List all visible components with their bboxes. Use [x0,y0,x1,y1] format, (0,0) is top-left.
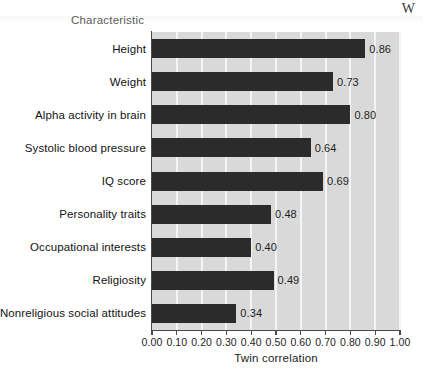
bar-value-label: 0.48 [275,208,297,220]
bar-value-label: 0.40 [255,241,277,253]
plot-area-wrapper: Height0.86Weight0.73Alpha activity in br… [152,32,400,330]
bar [152,138,311,157]
x-tick-mark [375,330,376,335]
category-label: Occupational interests [30,241,146,253]
bar-value-label: 0.49 [278,274,300,286]
x-tick-label: 0.90 [365,336,386,348]
bar [152,271,274,290]
x-tick-label: 0.50 [266,336,287,348]
category-label: Systolic blood pressure [25,142,146,154]
bar-value-label: 0.69 [327,175,349,187]
x-tick-mark [201,330,202,335]
x-tick-mark [350,330,351,335]
bar [152,205,271,224]
bar-row: Personality traits0.48 [152,205,400,224]
category-label: Weight [110,76,146,88]
twin-correlation-bar-chart: Characteristic Height0.86Weight0.73Alpha… [0,0,423,392]
x-tick-label: 0.80 [340,336,361,348]
x-tick-label: 0.70 [315,336,336,348]
bar [152,105,350,124]
bar [152,172,323,191]
bar [152,238,251,257]
bar [152,39,365,58]
x-tick-label: 0.40 [241,336,262,348]
x-tick-label: 1.00 [390,336,411,348]
x-tick-mark [226,330,227,335]
x-tick-mark [251,330,252,335]
x-tick-label: 0.30 [216,336,237,348]
category-label: Alpha activity in brain [35,109,146,121]
bar-row: Nonreligious social attitudes0.34 [152,304,400,323]
bar [152,304,236,323]
category-label: Personality traits [59,208,146,220]
bar-value-label: 0.73 [337,76,359,88]
bar-value-label: 0.64 [315,142,337,154]
bar-row: Height0.86 [152,39,400,58]
bar-row: Occupational interests0.40 [152,238,400,257]
x-tick-mark [399,330,400,335]
x-tick-label: 0.00 [142,336,163,348]
bar-value-label: 0.86 [369,43,391,55]
x-tick-mark [275,330,276,335]
category-label: Height [112,43,146,55]
x-tick-label: 0.20 [191,336,212,348]
x-tick-mark [300,330,301,335]
bar-row: Religiosity0.49 [152,271,400,290]
bar-row: Weight0.73 [152,72,400,91]
x-tick-mark [176,330,177,335]
category-label: Religiosity [92,274,146,286]
bar-row: Alpha activity in brain0.80 [152,105,400,124]
x-tick-label: 0.60 [290,336,311,348]
bar-row: Systolic blood pressure0.64 [152,138,400,157]
bar-value-label: 0.34 [240,307,262,319]
x-tick-label: 0.10 [166,336,187,348]
y-axis-title: Characteristic [71,14,144,26]
x-axis-title: Twin correlation [234,352,318,364]
category-label: Nonreligious social attitudes [0,307,146,319]
bar-value-label: 0.80 [354,109,376,121]
category-label: IQ score [102,175,146,187]
bar-row: IQ score0.69 [152,172,400,191]
bar [152,72,333,91]
x-tick-mark [325,330,326,335]
x-tick-mark [151,330,152,335]
